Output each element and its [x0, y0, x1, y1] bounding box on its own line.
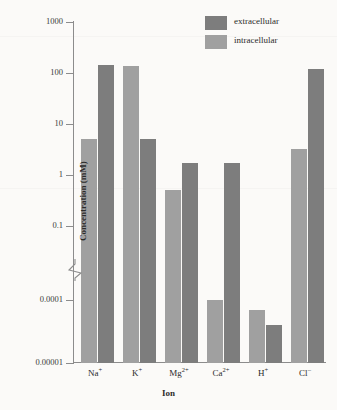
bar-H+-extracellular: [266, 325, 282, 363]
y-axis-title: Concentration (mM): [78, 71, 88, 331]
y-tick-mark: [66, 22, 74, 23]
bar-H+-intracellular: [249, 310, 265, 363]
bar-Na+-extracellular: [98, 65, 114, 363]
bar-Mg2+-extracellular: [182, 163, 198, 363]
y-tick-mark: [66, 300, 74, 301]
x-tick-label-K+: K+: [116, 366, 158, 378]
x-tick-label-H+: H+: [242, 366, 284, 378]
y-tick-label: 0.00001: [35, 357, 63, 367]
y-tick-mark: [66, 175, 74, 176]
y-tick-label: 10: [55, 118, 64, 128]
bar-Cl--intracellular: [291, 149, 307, 363]
y-tick-label: 0.1: [52, 220, 63, 230]
y-tick-label: 0.0001: [40, 294, 63, 304]
x-tick-label-Mg2+: Mg2+: [158, 366, 200, 378]
legend-label-extracellular: extracellular: [234, 16, 279, 26]
y-tick-label: 100: [50, 67, 63, 77]
x-tick-label-Na+: Na+: [74, 366, 116, 378]
bar-Cl--extracellular: [308, 69, 324, 363]
bar-Ca2+-extracellular: [224, 163, 240, 363]
legend-swatch-intracellular: [205, 35, 227, 49]
bar-Ca2+-intracellular: [207, 300, 223, 363]
y-tick-mark: [66, 363, 74, 364]
y-tick-mark: [66, 124, 74, 125]
y-tick-label: 1: [59, 169, 63, 179]
plot-area: 10001001010.10.00010.00001 Concentration…: [74, 20, 326, 363]
bar-K+-extracellular: [140, 139, 156, 363]
legend-label-intracellular: intracellular: [234, 35, 277, 45]
chart-figure: 10001001010.10.00010.00001 Concentration…: [0, 0, 337, 410]
y-tick-mark: [66, 226, 74, 227]
x-axis-title: Ion: [0, 388, 337, 398]
bar-K+-intracellular: [123, 66, 139, 363]
legend-swatch-extracellular: [205, 16, 227, 30]
y-tick-mark: [66, 73, 74, 74]
bar-Mg2+-intracellular: [165, 190, 181, 363]
x-tick-label-Ca2+: Ca2+: [200, 366, 242, 378]
y-tick-label: 1000: [46, 16, 63, 26]
x-tick-label-Cl-: Cl–: [284, 366, 326, 378]
